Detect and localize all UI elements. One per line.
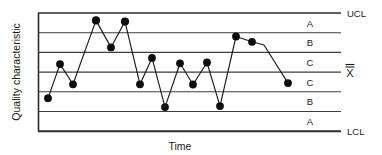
center-line-label-text: X (346, 67, 354, 79)
data-point (44, 94, 52, 102)
control-chart-canvas: A B C C B A UCL LCL X Quality characteri… (0, 0, 382, 155)
lcl-label: LCL (347, 126, 364, 137)
data-point (284, 79, 292, 87)
data-point (69, 80, 77, 88)
data-point (107, 44, 115, 52)
y-axis-label: Quality characteristic (10, 23, 22, 120)
data-point (161, 103, 169, 111)
zone-label-b-upper: B (307, 37, 313, 48)
zone-label-b-lower: B (307, 96, 313, 107)
center-line-label: X (346, 65, 355, 79)
x-axis-label: Time (169, 140, 192, 152)
data-point (136, 80, 144, 88)
data-point (189, 81, 197, 89)
data-point (216, 102, 224, 110)
zone-label-a-upper: A (307, 18, 314, 29)
data-point (176, 59, 184, 67)
data-point (92, 16, 100, 24)
data-point (121, 18, 129, 26)
data-point (203, 59, 211, 67)
zone-label-c-lower: C (307, 77, 314, 88)
zone-label-c-upper: C (307, 57, 314, 68)
zone-label-a-lower: A (307, 116, 314, 127)
data-point (148, 54, 156, 62)
control-chart: A B C C B A UCL LCL X Quality characteri… (0, 0, 382, 155)
data-point (248, 38, 256, 46)
data-point (232, 33, 240, 41)
data-point (56, 60, 64, 68)
ucl-label: UCL (347, 8, 366, 19)
